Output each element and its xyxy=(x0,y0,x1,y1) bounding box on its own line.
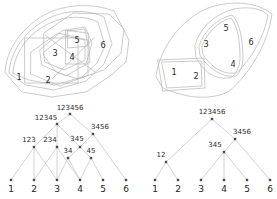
lattice-right-label-123456: 123456 xyxy=(199,108,226,116)
lattice-right-label-3: 3 xyxy=(198,184,204,194)
lattice-right-edge-3456-345 xyxy=(224,139,235,152)
lattice-right-edge-3456-6 xyxy=(235,139,270,180)
lattice-right-label-12: 12 xyxy=(157,151,166,159)
lattice-right-label-345: 345 xyxy=(208,141,221,149)
lattice-right-node-123456[interactable] xyxy=(211,118,213,120)
lattice-right-edge-345-5 xyxy=(224,152,247,180)
lattice-left-label-345: 345 xyxy=(70,135,83,143)
lattice-right-label-3456: 3456 xyxy=(233,128,251,136)
lattice-right-nodes: 123456123453456123456 xyxy=(152,108,273,194)
lattice-right-edge-123456-12 xyxy=(166,119,212,162)
lattice-left-label-1: 1 xyxy=(8,184,14,194)
lattice-left-label-6: 6 xyxy=(123,184,129,194)
lattice-left-edge-34-4 xyxy=(68,158,80,180)
lattice-left-node-123456[interactable] xyxy=(69,113,71,115)
lattice-left-edge-45-5 xyxy=(91,158,103,180)
lattice-right-edges xyxy=(155,119,270,180)
lattice-left-label-123: 123 xyxy=(22,136,35,144)
lattice-left-label-4: 4 xyxy=(77,184,83,194)
lattice-left-edge-123456-3456 xyxy=(70,114,93,134)
lattice-right-node-12[interactable] xyxy=(165,161,167,163)
lattice-left-label-34: 34 xyxy=(64,147,73,155)
lattice-left-edge-34-3 xyxy=(57,158,68,180)
lattice-left-node-2[interactable] xyxy=(33,179,35,181)
figure-root: 1 2 3 4 5 6 1 xyxy=(0,0,277,199)
lattice-right-node-1[interactable] xyxy=(154,179,156,181)
lattice-right-edge-123456-3456 xyxy=(212,119,235,139)
lattice-right-node-345[interactable] xyxy=(223,151,225,153)
lattice-left-node-1[interactable] xyxy=(10,179,12,181)
lattice-left-node-12345[interactable] xyxy=(56,123,58,125)
lattice-right-label-2: 2 xyxy=(175,184,181,194)
lattice-left-edge-45-4 xyxy=(80,158,91,180)
lattice-right-label-1: 1 xyxy=(152,184,158,194)
lattice-left-node-234[interactable] xyxy=(56,146,58,148)
lattice-left-edge-3456-6 xyxy=(93,134,126,180)
lattice-left-label-5: 5 xyxy=(100,184,106,194)
lattice-left-label-45: 45 xyxy=(87,147,96,155)
lattice-right-node-2[interactable] xyxy=(177,179,179,181)
lattice-left-edge-123-1 xyxy=(11,147,34,180)
lattice-right-node-6[interactable] xyxy=(269,179,271,181)
lattice-right-edge-12-2 xyxy=(166,162,178,180)
lattice-right-node-3456[interactable] xyxy=(234,138,236,140)
lattice-left-node-34[interactable] xyxy=(67,157,69,159)
lattice-right-edge-345-3 xyxy=(201,152,224,180)
lattice-left-edge-123456-12345 xyxy=(57,114,70,124)
lattice-left-node-3[interactable] xyxy=(56,179,58,181)
lattice-left-label-3: 3 xyxy=(54,184,60,194)
lattice-left-label-2: 2 xyxy=(31,184,37,194)
lattice-left-label-12345: 12345 xyxy=(35,114,57,122)
lattice-left-node-3456[interactable] xyxy=(92,133,94,135)
hasse-diagrams-row: 1234563445123234345345612345123456 12345… xyxy=(0,0,277,199)
lattice-right-node-5[interactable] xyxy=(246,179,248,181)
lattice-left-nodes: 1234563445123234345345612345123456 xyxy=(8,104,129,194)
lattice-left-node-6[interactable] xyxy=(125,179,127,181)
lattice-left-label-234: 234 xyxy=(43,136,57,144)
lattice-right-label-4: 4 xyxy=(221,184,227,194)
hasse-svg: 1234563445123234345345612345123456 12345… xyxy=(0,0,277,199)
lattice-right-node-4[interactable] xyxy=(223,179,225,181)
lattice-right-edge-12-1 xyxy=(155,162,166,180)
lattice-left-node-4[interactable] xyxy=(79,179,81,181)
lattice-left-label-3456: 3456 xyxy=(91,123,109,131)
lattice-left-node-5[interactable] xyxy=(102,179,104,181)
lattice-right-label-6: 6 xyxy=(267,184,273,194)
lattice-left-node-345[interactable] xyxy=(79,146,81,148)
lattice-left-node-123[interactable] xyxy=(33,146,35,148)
lattice-left-label-123456: 123456 xyxy=(57,104,84,112)
lattice-left-node-45[interactable] xyxy=(90,157,92,159)
lattice-right-node-3[interactable] xyxy=(200,179,202,181)
lattice-right-label-5: 5 xyxy=(244,184,250,194)
